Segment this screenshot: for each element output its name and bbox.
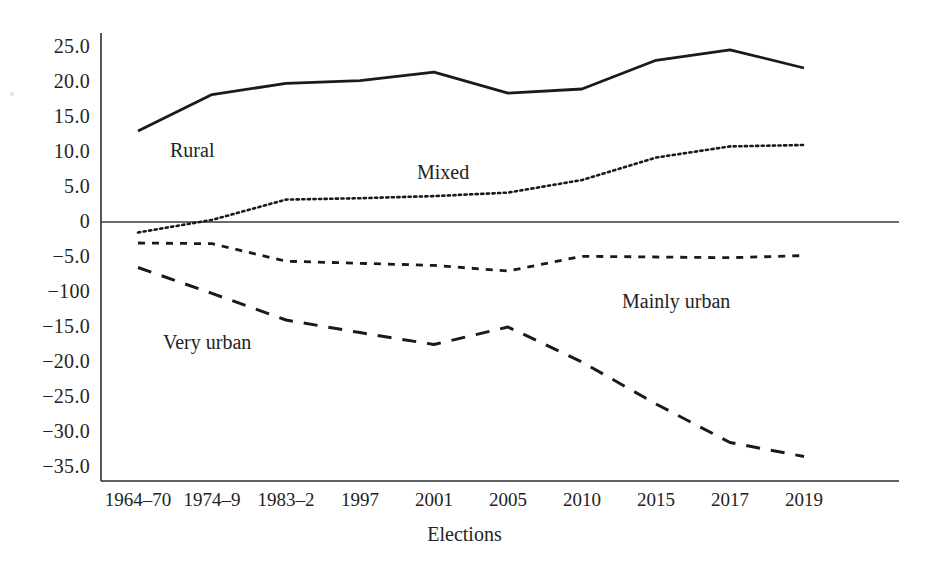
y-tick-label: 15.0 (20, 105, 90, 128)
series-line-mixed (138, 145, 804, 233)
series-label-mixed: Mixed (417, 161, 469, 184)
y-tick-label: 5.0 (20, 175, 90, 198)
y-tick-label: −35.0 (20, 455, 90, 478)
series-label-very-urban: Very urban (163, 331, 251, 354)
chart-figure: 25.020.015.010.05.00−5.0−100−15.0−20.0−2… (0, 0, 929, 569)
series-line-rural (138, 50, 804, 131)
y-tick-label: −30.0 (20, 420, 90, 443)
series-line-mainly-urban (138, 243, 804, 271)
y-tick-label: −5.0 (20, 245, 90, 268)
y-tick-label: −100 (20, 280, 90, 303)
series-label-mainly-urban: Mainly urban (622, 290, 730, 313)
series-layer (138, 50, 804, 457)
y-tick-label: 25.0 (20, 35, 90, 58)
scan-artifact-speck (10, 92, 14, 96)
series-label-rural: Rural (170, 139, 214, 162)
y-tick-label: −25.0 (20, 385, 90, 408)
y-tick-label: 0 (20, 210, 90, 233)
y-tick-label: −15.0 (20, 315, 90, 338)
y-tick-label: 10.0 (20, 140, 90, 163)
x-tick-label: 2019 (744, 489, 864, 511)
y-tick-label: 20.0 (20, 70, 90, 93)
y-tick-label: −20.0 (20, 350, 90, 373)
line-chart-canvas (0, 0, 929, 569)
x-axis-title: Elections (0, 523, 929, 546)
